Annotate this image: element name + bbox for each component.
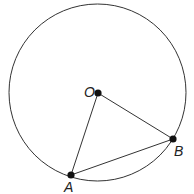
- segment-OB: [98, 93, 173, 139]
- point-B: [169, 135, 176, 142]
- point-O: [94, 89, 101, 96]
- label-A: A: [63, 179, 73, 194]
- label-B: B: [174, 143, 183, 159]
- circle-diagram: O A B: [0, 0, 194, 194]
- diagram-svg: O A B: [0, 0, 194, 194]
- segment-OA: [71, 93, 98, 175]
- label-O: O: [84, 84, 95, 100]
- point-A: [67, 171, 74, 178]
